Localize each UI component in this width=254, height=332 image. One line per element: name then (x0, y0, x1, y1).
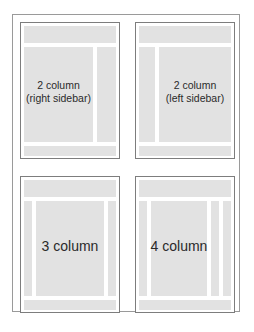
layout-two-column-left-sidebar: 2 column (left sidebar) (135, 22, 235, 159)
layout-label-line1: 2 column (159, 79, 231, 92)
footer-block (139, 300, 231, 310)
left-sidebar-block (24, 201, 32, 296)
right-sidebar-block (108, 201, 116, 296)
right-sidebar-block (97, 47, 116, 142)
layout-three-column: 3 column (20, 176, 120, 313)
layout-label-line2: (left sidebar) (159, 92, 231, 105)
layout-label-line1: 2 column (24, 79, 93, 92)
header-block (24, 180, 116, 197)
layout-label: 3 column (36, 238, 104, 256)
left-sidebar-block (139, 47, 155, 142)
header-block (139, 26, 231, 43)
header-block (24, 26, 116, 43)
layout-label-line1: 3 column (36, 238, 104, 256)
layout-label-line1: 4 column (139, 238, 219, 256)
layout-label: 4 column (139, 238, 219, 256)
header-block (139, 180, 231, 197)
layout-label: 2 column (right sidebar) (24, 79, 93, 105)
footer-block (24, 300, 116, 310)
layout-two-column-right-sidebar: 2 column (right sidebar) (20, 22, 120, 159)
right-sidebar-block-2 (223, 201, 231, 296)
layout-four-column: 4 column (135, 176, 235, 313)
layout-label-line2: (right sidebar) (24, 92, 93, 105)
footer-block (24, 146, 116, 156)
footer-block (139, 146, 231, 156)
layout-label: 2 column (left sidebar) (159, 79, 231, 105)
